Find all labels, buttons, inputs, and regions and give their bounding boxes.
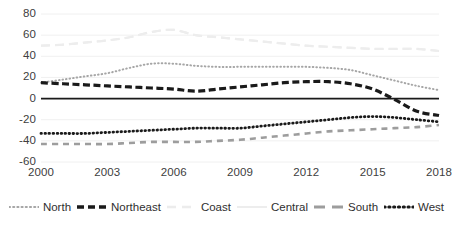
legend-swatch-central-icon xyxy=(237,201,267,213)
legend-item-north[interactable]: North xyxy=(9,201,71,213)
line-chart: 806040200-20-40-60 200020032006200920122… xyxy=(0,0,453,225)
legend-item-south[interactable]: South xyxy=(314,201,378,213)
x-axis-tick-label: 2000 xyxy=(28,166,54,179)
x-axis-tick-label: 2009 xyxy=(227,166,253,179)
y-axis-tick-label: 40 xyxy=(0,50,36,62)
legend-item-central[interactable]: Central xyxy=(237,201,308,213)
x-axis-tick-label: 2003 xyxy=(94,166,120,179)
x-axis-tick-label: 2006 xyxy=(161,166,187,179)
y-axis-tick-label: 0 xyxy=(0,93,36,105)
x-axis-tick-label: 2018 xyxy=(426,166,452,179)
y-axis-tick-label: -40 xyxy=(0,135,36,147)
y-axis-tick-label: 20 xyxy=(0,71,36,83)
legend-label: Central xyxy=(271,201,308,213)
x-axis-tick-label: 2012 xyxy=(293,166,319,179)
legend-swatch-northeast-icon xyxy=(77,201,107,213)
legend-label: West xyxy=(418,201,444,213)
plot-svg xyxy=(41,14,439,162)
legend-item-northeast[interactable]: Northeast xyxy=(77,201,161,213)
x-axis: 2000200320062009201220152018 xyxy=(41,166,439,184)
legend-label: Coast xyxy=(201,201,231,213)
y-axis: 806040200-20-40-60 xyxy=(0,0,36,180)
legend-swatch-coast-icon xyxy=(167,201,197,213)
y-axis-tick-label: 60 xyxy=(0,29,36,41)
plot-area xyxy=(41,14,439,162)
legend-label: South xyxy=(348,201,378,213)
y-axis-tick-label: 80 xyxy=(0,8,36,20)
series-line-west xyxy=(41,117,439,134)
x-axis-tick-label: 2015 xyxy=(360,166,386,179)
legend-swatch-north-icon xyxy=(9,201,39,213)
legend-swatch-south-icon xyxy=(314,201,344,213)
y-axis-tick-label: -20 xyxy=(0,114,36,126)
legend-label: North xyxy=(43,201,71,213)
legend-label: Northeast xyxy=(111,201,161,213)
chart-legend: NorthNortheastCoastCentralSouthWest xyxy=(0,196,453,218)
legend-swatch-west-icon xyxy=(384,201,414,213)
series-line-central xyxy=(41,30,439,51)
legend-item-coast[interactable]: Coast xyxy=(167,201,231,213)
legend-item-west[interactable]: West xyxy=(384,201,444,213)
